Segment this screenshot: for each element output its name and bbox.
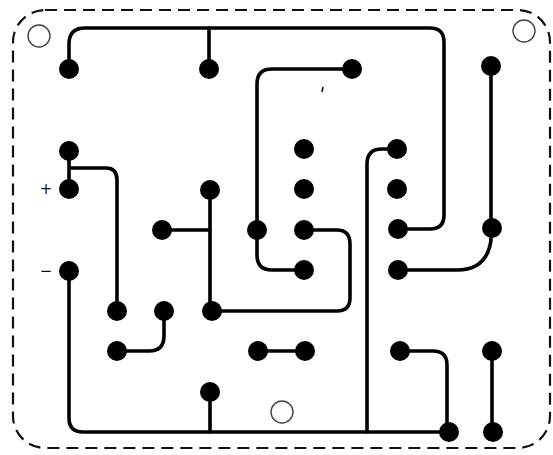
solder-pad-p6	[59, 179, 79, 199]
solder-pad-p17	[59, 261, 79, 281]
solder-pad-p2	[199, 59, 219, 79]
solder-pad-p3	[342, 59, 362, 79]
solder-pad-p28	[200, 382, 220, 402]
solder-pad-p12	[152, 220, 172, 240]
solder-pad-p10	[387, 139, 407, 159]
solder-pad-p1	[59, 59, 79, 79]
solder-pad-p11	[387, 179, 407, 199]
scan-specks	[322, 87, 323, 92]
solder-pad-p13	[247, 220, 267, 240]
plus-label: +	[40, 180, 53, 198]
solder-pad-p19	[388, 260, 408, 280]
speck-mark	[322, 87, 323, 92]
solder-pad-p26	[390, 341, 410, 361]
solder-pad-p18	[294, 260, 314, 280]
solder-pad-p29	[439, 422, 459, 442]
solder-pad-p14	[294, 220, 314, 240]
solder-pad-p22	[202, 301, 222, 321]
solder-pad-p21	[154, 301, 174, 321]
solder-pad-p30	[483, 422, 503, 442]
pcb-board: +−	[0, 0, 553, 455]
solder-pad-p4	[481, 56, 501, 76]
solder-pad-p5	[59, 141, 79, 161]
solder-pad-p23	[107, 341, 127, 361]
solder-pad-p9	[294, 179, 314, 199]
solder-pad-p15	[388, 219, 408, 239]
solder-pad-p27	[482, 341, 502, 361]
solder-pad-p8	[294, 139, 314, 159]
solder-pad-p16	[482, 218, 502, 238]
solder-pad-p7	[200, 180, 220, 200]
solder-pad-p25	[295, 341, 315, 361]
minus-label: −	[40, 262, 53, 280]
solder-pad-p24	[248, 341, 268, 361]
solder-pad-p20	[107, 301, 127, 321]
